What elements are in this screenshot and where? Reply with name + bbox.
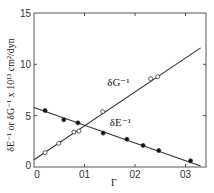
plot-axes: 0010203051015ΓδE⁻¹ or δG⁻¹ x 10¹³ cm²/dy…	[5, 8, 206, 188]
series-labels: δG⁻¹δE⁻¹	[107, 76, 131, 128]
x-tick-label: 03	[180, 169, 192, 180]
open-point	[77, 129, 81, 133]
filled-point	[62, 118, 66, 122]
y-axis-title: δE⁻¹ or δG⁻¹ x 10¹³ cm²/dyn	[5, 38, 16, 152]
x-tick-label: 02	[129, 169, 141, 180]
open-point	[43, 151, 47, 155]
y-tick-label: 15	[20, 8, 32, 19]
open-point	[101, 110, 105, 114]
series-label: δG⁻¹	[107, 76, 129, 88]
series-label: δE⁻¹	[110, 116, 131, 128]
fit-lines	[34, 48, 201, 166]
filled-point	[189, 159, 193, 163]
filled-point	[76, 121, 80, 125]
x-tick-label: 0	[34, 169, 40, 180]
x-tick-label: 01	[79, 169, 91, 180]
filled-point	[101, 131, 105, 135]
y-tick-label: 10	[20, 59, 32, 70]
filled-point	[141, 143, 145, 147]
open-point	[57, 141, 61, 145]
filled-point	[125, 137, 129, 141]
y-tick-label: 5	[25, 111, 31, 122]
x-axis-title: Γ	[111, 177, 117, 188]
chart: 0010203051015ΓδE⁻¹ or δG⁻¹ x 10¹³ cm²/dy…	[0, 0, 214, 193]
open-point	[156, 75, 160, 79]
filled-point	[157, 149, 161, 153]
y-tick-label: 0	[25, 160, 31, 171]
open-point	[72, 130, 76, 134]
open-point	[149, 77, 153, 81]
filled-point	[43, 109, 47, 113]
